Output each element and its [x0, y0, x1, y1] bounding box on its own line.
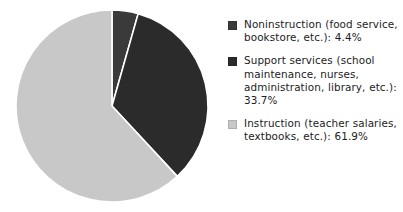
pie-chart-figure: Noninstruction (food service, bookstore,…	[0, 0, 403, 212]
legend-swatch-instruction-icon	[228, 120, 237, 129]
legend-swatch-noninstruction-icon	[228, 21, 237, 30]
chart-legend: Noninstruction (food service, bookstore,…	[228, 18, 400, 154]
pie-chart-svg	[14, 6, 214, 208]
legend-item-instruction: Instruction (teacher salaries, textbooks…	[228, 117, 400, 143]
pie-slice-group	[16, 10, 208, 202]
legend-label-instruction: Instruction (teacher salaries, textbooks…	[244, 117, 400, 143]
legend-item-support-services: Support services (school maintenance, nu…	[228, 54, 400, 107]
legend-swatch-support-services-icon	[228, 57, 237, 66]
legend-label-noninstruction: Noninstruction (food service, bookstore,…	[244, 18, 400, 44]
legend-label-support-services: Support services (school maintenance, nu…	[244, 54, 400, 107]
pie-chart-plot-area	[14, 6, 214, 208]
legend-item-noninstruction: Noninstruction (food service, bookstore,…	[228, 18, 400, 44]
